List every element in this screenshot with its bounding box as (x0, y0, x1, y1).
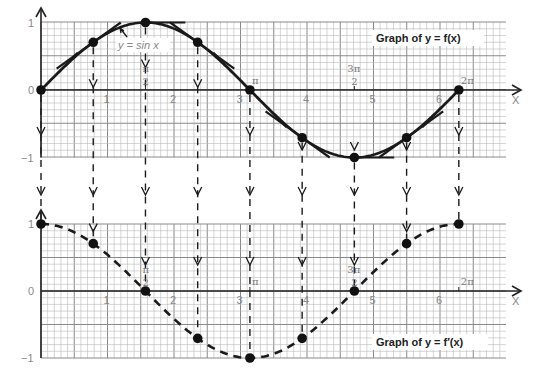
bottom-y-tick-label: 1 (28, 218, 34, 230)
bottom-data-point (36, 219, 46, 229)
top-data-point (402, 133, 412, 143)
top-x-axis-label: X (512, 94, 520, 106)
bottom-x-tick-label: 4 (303, 294, 309, 306)
top-data-point (193, 37, 203, 47)
down-arrow-icon (455, 127, 463, 135)
bottom-x-tick-label: 6 (436, 294, 442, 306)
bottom-x-axis-label: X (512, 295, 520, 307)
bottom-x-tick-label: 1 (104, 294, 110, 306)
top-data-point (350, 153, 360, 163)
top-data-point (297, 133, 307, 143)
top-pi-tick-label: π (252, 75, 259, 86)
tangent-line (57, 23, 121, 69)
bottom-chart-title: Graph of y = f′(x) (376, 336, 464, 348)
top-data-point (88, 37, 98, 47)
bottom-data-point (454, 219, 464, 229)
bottom-x-tick-label: 3 (237, 294, 243, 306)
top-pi-tick-numerator: 3π (347, 63, 360, 74)
top-y-tick-label: 1 (28, 17, 34, 29)
top-x-tick-label: 5 (370, 93, 376, 105)
bottom-data-point (245, 353, 255, 363)
bottom-pi-tick-label: 2π (461, 276, 474, 287)
down-arrow-icon (89, 79, 97, 87)
top-x-tick-label: 1 (104, 93, 110, 105)
top-x-tick-label: 2 (170, 93, 176, 105)
bottom-pi-tick-numerator: π (142, 264, 149, 275)
curve-label: y = sin x (117, 39, 159, 51)
top-pi-tick-numerator: π (142, 63, 149, 74)
bottom-data-point (193, 334, 203, 344)
top-chart-title: Graph of y = f(x) (376, 32, 461, 44)
top-data-point (245, 85, 255, 95)
derivative-chart: X12345610−1π2π3π22π X12345610−1π2π3π22π … (0, 0, 538, 376)
top-pi-tick-denominator: 2 (142, 76, 148, 87)
bottom-data-point (402, 239, 412, 249)
top-y-tick-label: 0 (28, 84, 34, 96)
bottom-data-point (141, 286, 151, 296)
top-x-tick-label: 3 (237, 93, 243, 105)
top-data-point (454, 85, 464, 95)
top-data-point (36, 85, 46, 95)
top-y-tick-label: −1 (21, 152, 34, 164)
tangent-line (170, 23, 234, 69)
bottom-x-tick-label: 5 (370, 294, 376, 306)
bottom-data-point (88, 239, 98, 249)
top-x-tick-label: 4 (303, 93, 309, 105)
top-x-tick-label: 6 (436, 93, 442, 105)
bottom-data-point (350, 286, 360, 296)
top-data-point (141, 18, 151, 28)
bottom-pi-tick-label: π (252, 276, 259, 287)
bottom-pi-tick-numerator: 3π (347, 264, 360, 275)
top-pi-tick-denominator: 2 (351, 76, 357, 87)
bottom-y-tick-label: −1 (21, 352, 34, 364)
top-pi-tick-label: 2π (461, 75, 474, 86)
bottom-x-tick-label: 2 (170, 294, 176, 306)
bottom-y-tick-label: 0 (28, 285, 34, 297)
bottom-data-point (297, 334, 307, 344)
